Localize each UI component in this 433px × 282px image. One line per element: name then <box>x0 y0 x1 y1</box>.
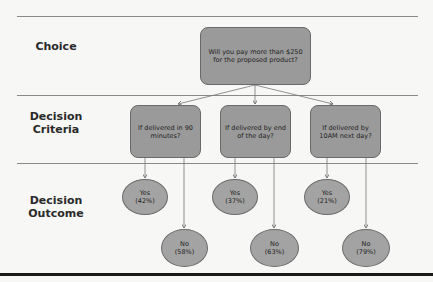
outcome-no-10am-next-day: No (79%) <box>342 229 390 267</box>
outcome-yes-10am-next-day: Yes (21%) <box>304 179 350 215</box>
outcome-yes-90-minutes: Yes (42%) <box>122 179 168 215</box>
outcome-label: Yes <box>230 189 241 197</box>
outcome-percent: (63%) <box>265 248 285 256</box>
outcome-percent: (37%) <box>225 197 245 205</box>
criteria-box-10am-next-day: If delivered by 10AM next day? <box>310 105 381 158</box>
choice-question-box: Will you pay more than $250 for the prop… <box>200 27 311 85</box>
outcome-label: No <box>362 240 371 248</box>
outcome-no-90-minutes: No (58%) <box>161 229 208 267</box>
outcome-label: Yes <box>140 189 151 197</box>
outcome-no-end-of-day: No (63%) <box>250 229 299 267</box>
outcome-yes-end-of-day: Yes (37%) <box>212 179 258 215</box>
decision-tree-diagram: Choice Decision Criteria Decision Outcom… <box>0 0 433 282</box>
outcome-percent: (58%) <box>175 248 195 256</box>
criteria-box-90-minutes: If delivered in 90 minutes? <box>130 105 201 158</box>
outcome-label: No <box>270 240 279 248</box>
outcome-percent: (79%) <box>356 248 376 256</box>
criteria-box-end-of-day: If delivered by end of the day? <box>220 105 291 158</box>
outcome-percent: (42%) <box>135 197 155 205</box>
outcome-percent: (21%) <box>317 197 337 205</box>
outcome-label: No <box>180 240 189 248</box>
outcome-label: Yes <box>322 189 333 197</box>
